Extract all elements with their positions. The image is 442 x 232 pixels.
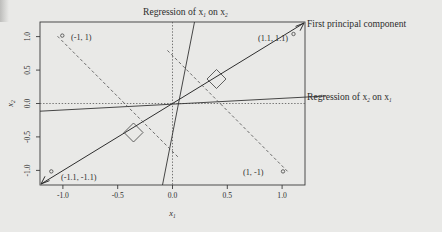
annotation-first-principal-component: First principal component — [307, 18, 406, 29]
y-tick-label-1: 0.5 — [23, 65, 32, 75]
data-point-minus1-1 — [61, 34, 64, 37]
x-tick-label-2: 0.0 — [168, 191, 178, 200]
data-point-1-minus1 — [281, 170, 284, 173]
y-tick-label-0: 1.0 — [23, 32, 32, 42]
point-label-lower-left: (-1.1, -1.1) — [61, 173, 97, 182]
x-tick-label-1: -0.5 — [112, 191, 124, 200]
plot-svg: -1.0 -0.5 0.0 0.5 1.0 1.0 0.5 0.0 -0.5 -… — [0, 0, 442, 232]
title-part-1: Regression of x — [143, 6, 203, 17]
title-part-2: on x — [206, 6, 225, 17]
annot2-sub-2: 1 — [389, 97, 392, 103]
annot2-part-1: Regression of x — [307, 91, 367, 102]
x-tick-label-3: 0.5 — [223, 191, 233, 200]
point-label-upper-left: (-1, 1) — [71, 33, 92, 42]
svg-text:x2: x2 — [6, 100, 16, 108]
y-axis-title: x2 — [6, 100, 16, 108]
title-regression-x1-on-x2: Regression of x1 on x2 — [143, 6, 228, 18]
annot2-part-2: on x — [370, 91, 389, 102]
y-axis-title-sub: 2 — [10, 100, 16, 103]
point-label-lower-right: (1, -1) — [243, 168, 264, 177]
annotation-regression-x2-on-x1: Regression of x2 on x1 — [307, 91, 392, 103]
y-tick-label-2: 0.0 — [23, 99, 32, 109]
y-axis-ticks — [36, 37, 40, 171]
y-tick-label-4: -1.0 — [23, 164, 32, 176]
title-sub-2: 2 — [225, 12, 228, 18]
regression-pca-figure: -1.0 -0.5 0.0 0.5 1.0 1.0 0.5 0.0 -0.5 -… — [0, 0, 442, 232]
right-angle-marker-lower-left — [124, 123, 143, 142]
projection-line-upper-left — [58, 36, 179, 157]
x-axis-title: x1 — [168, 209, 176, 219]
x-axis-ticks — [63, 185, 282, 189]
point-label-upper-right: (1.1, 1.1) — [258, 34, 288, 43]
data-point-1.1-1.1 — [292, 32, 295, 35]
x-tick-label-0: -1.0 — [57, 191, 69, 200]
y-tick-label-3: -0.5 — [23, 131, 32, 143]
x-tick-label-4: 1.0 — [277, 191, 287, 200]
x-axis-title-sub: 1 — [173, 213, 176, 219]
data-point-minus1.1-minus1.1 — [50, 170, 53, 173]
